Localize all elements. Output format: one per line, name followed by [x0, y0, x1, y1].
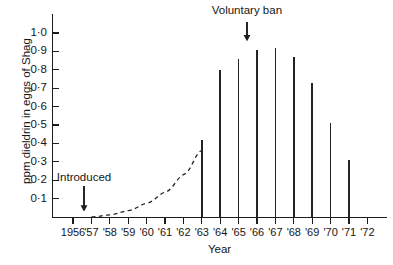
bar [201, 140, 203, 217]
x-axis-tick [220, 217, 221, 224]
y-axis-tick [52, 124, 59, 125]
y-axis-tick [52, 106, 59, 107]
y-axis-tick [52, 88, 59, 89]
bar [238, 59, 240, 217]
annotation-label-introduced: Introduced [57, 171, 111, 183]
x-axis-tick-label: '65 [231, 226, 245, 238]
x-axis-tick-label: '58 [103, 226, 117, 238]
x-axis-tick [330, 217, 331, 224]
x-axis-tick [293, 217, 294, 224]
annotation-arrow-voluntary-ban [241, 22, 252, 41]
x-axis-tick [238, 217, 239, 224]
x-axis-tick [128, 217, 129, 224]
y-axis-tick [52, 32, 59, 33]
x-axis-tick [367, 217, 368, 224]
x-axis-tick-label: '68 [287, 226, 301, 238]
bar [256, 50, 258, 217]
x-axis-tick-label: '67 [268, 226, 282, 238]
x-axis-tick [312, 217, 313, 224]
bar [311, 83, 313, 217]
x-axis-tick [109, 217, 110, 224]
y-axis-line [52, 14, 53, 218]
x-axis-title: Year [52, 243, 387, 255]
x-axis-tick [275, 217, 276, 224]
y-axis-tick [52, 143, 59, 144]
chart-canvas: 0·10·20·30·40·50·60·70·80·91·0 1956'57'5… [0, 0, 393, 265]
x-axis-tick-label: '69 [305, 226, 319, 238]
x-axis-tick-label: '63 [195, 226, 209, 238]
x-axis-tick [146, 217, 147, 224]
x-axis-tick [91, 217, 92, 224]
y-axis-title: ppm dieldrin in eggs of Shag [20, 16, 32, 206]
x-axis-tick-label: '57 [84, 226, 98, 238]
bar [330, 123, 332, 217]
bar [219, 70, 221, 217]
x-axis-tick [201, 217, 202, 224]
bar [293, 57, 295, 217]
y-axis-tick [52, 51, 59, 52]
bar [275, 48, 277, 217]
x-axis-tick [256, 217, 257, 224]
x-axis-tick-label: '71 [342, 226, 356, 238]
x-axis-tick [348, 217, 349, 224]
x-axis-tick-label: '59 [121, 226, 135, 238]
x-axis-tick-label: '62 [176, 226, 190, 238]
x-axis-tick-label: 1956 [61, 226, 85, 238]
x-axis-tick [164, 217, 165, 224]
annotation-arrow-introduced [79, 186, 90, 212]
y-axis-tick [52, 198, 59, 199]
x-axis-tick-label: '64 [213, 226, 227, 238]
x-axis-tick-label: '61 [158, 226, 172, 238]
y-axis-tick [52, 161, 59, 162]
x-axis-tick [183, 217, 184, 224]
x-axis-tick-label: '60 [139, 226, 153, 238]
x-axis-tick-label: '72 [360, 226, 374, 238]
annotation-label-voluntary-ban: Voluntary ban [212, 4, 282, 16]
bar [348, 160, 350, 217]
y-axis-tick [52, 69, 59, 70]
x-axis-tick-label: '66 [250, 226, 264, 238]
x-axis-tick-label: '70 [323, 226, 337, 238]
x-axis-tick [72, 217, 73, 224]
